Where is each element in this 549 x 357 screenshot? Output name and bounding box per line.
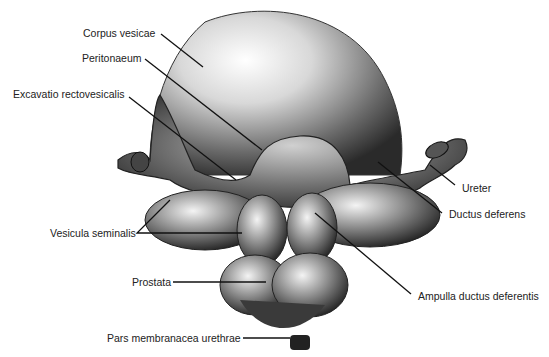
label-pars-membranacea-urethrae: Pars membranacea urethrae	[107, 332, 241, 344]
ampulla-left	[237, 195, 287, 265]
label-ampulla-ductus-deferentis: Ampulla ductus deferentis	[418, 290, 539, 302]
urethra-membranous	[290, 335, 310, 350]
label-ureter: Ureter	[462, 182, 491, 194]
label-excavatio-rectovesicalis: Excavatio rectovesicalis	[13, 88, 124, 100]
label-corpus-vesicae: Corpus vesicae	[83, 27, 155, 39]
label-vesicula-seminalis: Vesicula seminalis	[50, 227, 136, 239]
ureter-left	[131, 152, 149, 172]
label-ductus-deferens: Ductus deferens	[449, 208, 525, 220]
ampulla-right	[287, 193, 337, 263]
label-prostata: Prostata	[132, 276, 171, 288]
label-peritonaeum: Peritonaeum	[82, 52, 142, 64]
